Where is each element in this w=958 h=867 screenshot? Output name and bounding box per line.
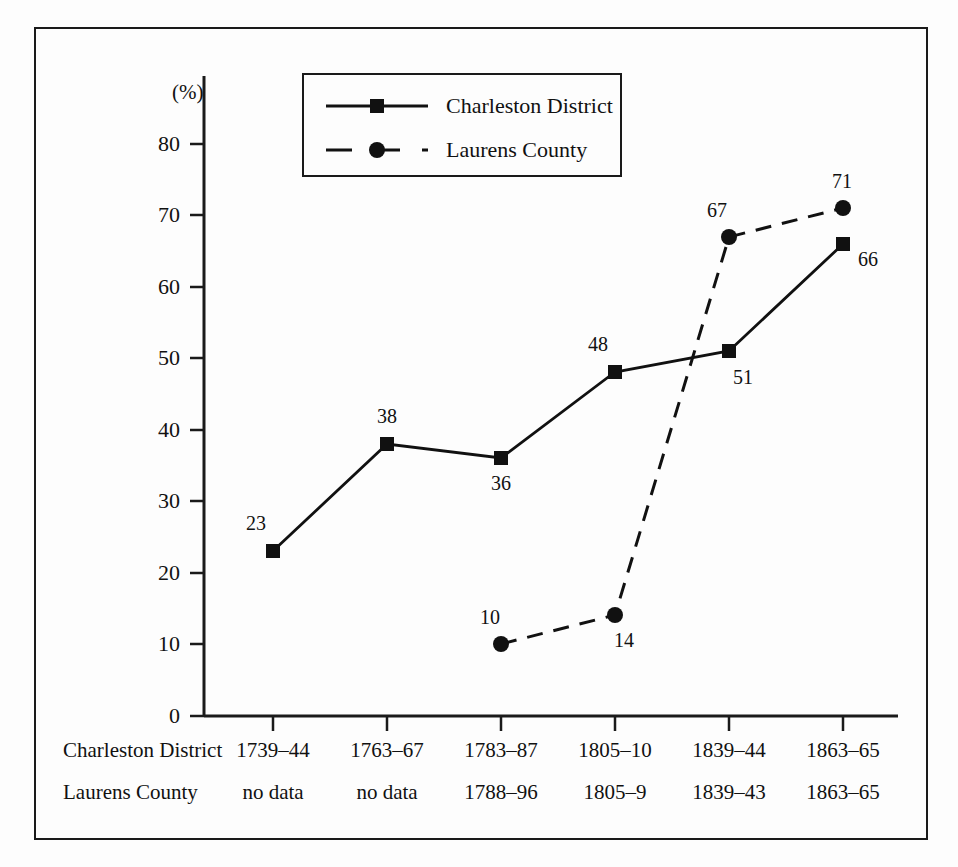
legend-swatch-dashed-circle (322, 138, 432, 162)
period-laurens-6: 1863–65 (806, 782, 880, 803)
period-laurens-5: 1839–43 (692, 782, 766, 803)
period-charleston-4: 1805–10 (578, 740, 652, 761)
x-axis-ticks (273, 716, 843, 731)
legend-label-laurens-county: Laurens County (446, 139, 587, 161)
legend-entry-charleston-district: Charleston District (304, 91, 620, 121)
point-label-charleston-1739-44: 23 (246, 513, 266, 533)
legend-label-charleston-district: Charleston District (446, 95, 613, 117)
series-line-charleston-district (273, 244, 843, 551)
row-header-charleston-district: Charleston District (63, 740, 222, 761)
y-tick-label-30: 30 (138, 490, 180, 512)
y-axis-unit-label: (%) (172, 82, 203, 103)
period-laurens-2: no data (356, 782, 417, 803)
y-axis-ticks (190, 144, 204, 716)
period-charleston-5: 1839–44 (692, 740, 766, 761)
chart-page: (%) 80 70 60 50 40 30 20 10 0 Charleston… (0, 0, 958, 867)
series-markers-laurens-county (493, 200, 851, 652)
point-label-charleston-1839-44: 51 (733, 367, 753, 387)
period-charleston-2: 1763–67 (350, 740, 424, 761)
point-label-laurens-1805-9: 14 (614, 630, 634, 650)
series-line-laurens-county (501, 208, 843, 644)
point-label-charleston-1863-65: 66 (858, 249, 878, 269)
period-charleston-6: 1863–65 (806, 740, 880, 761)
legend-entry-laurens-county: Laurens County (304, 135, 620, 165)
point-label-charleston-1763-67: 38 (377, 406, 397, 426)
point-label-laurens-1839-43: 67 (707, 200, 727, 220)
y-tick-label-70: 70 (138, 204, 180, 226)
row-header-laurens-county: Laurens County (63, 782, 198, 803)
period-laurens-1: no data (242, 782, 303, 803)
period-laurens-4: 1805–9 (584, 782, 647, 803)
point-label-charleston-1783-87: 36 (491, 473, 511, 493)
point-label-laurens-1863-65: 71 (832, 171, 852, 191)
y-tick-label-20: 20 (138, 562, 180, 584)
legend-swatch-solid-square (322, 94, 432, 118)
period-charleston-3: 1783–87 (464, 740, 538, 761)
y-tick-label-0: 0 (138, 705, 180, 727)
legend: Charleston District Laurens County (302, 73, 622, 177)
period-charleston-1: 1739–44 (236, 740, 310, 761)
y-tick-label-40: 40 (138, 419, 180, 441)
point-label-laurens-1788-96: 10 (480, 607, 500, 627)
y-tick-label-60: 60 (138, 276, 180, 298)
y-tick-label-80: 80 (138, 133, 180, 155)
y-tick-label-10: 10 (138, 633, 180, 655)
series-markers-charleston-district (266, 237, 850, 558)
period-laurens-3: 1788–96 (464, 782, 538, 803)
y-tick-label-50: 50 (138, 347, 180, 369)
point-label-charleston-1805-10: 48 (588, 334, 608, 354)
